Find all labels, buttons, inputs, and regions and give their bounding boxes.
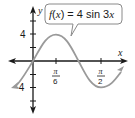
x-tick-label-pi-over-2: π 2 (97, 67, 105, 86)
x-axis-label: x (117, 47, 123, 58)
sine-graph: y x 4 −4 π 6 π 2 f(x) = 4 sin 3x (0, 0, 135, 118)
function-label: f(x) = 4 sin 3x (49, 8, 114, 20)
svg-text:2: 2 (98, 77, 103, 86)
y-axis-label: y (37, 5, 43, 16)
svg-text:π: π (54, 67, 59, 76)
x-axis (8, 58, 128, 64)
sine-curve (11, 35, 124, 89)
svg-text:π: π (99, 67, 104, 76)
x-tick-label-pi-over-6: π 6 (52, 67, 60, 86)
curve-right-arrow-icon (117, 66, 124, 75)
y-tick-label-4: 4 (20, 29, 26, 40)
function-callout: f(x) = 4 sin 3x (45, 4, 122, 36)
svg-text:6: 6 (53, 77, 58, 86)
